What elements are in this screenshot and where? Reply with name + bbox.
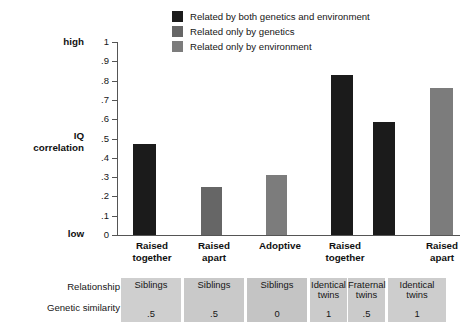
table-cell-relationship: Identicaltwins (310, 280, 347, 300)
axis-label-low: low (28, 228, 84, 239)
category-label-line1: Raised (409, 240, 466, 252)
x-axis-category-label: Adoptive (245, 240, 315, 252)
y-axis-tick: .7 (112, 100, 117, 101)
bar (133, 144, 156, 235)
plot-area: 1.9.8.7.6.5.4.3.2.10 (117, 42, 460, 235)
bar (266, 175, 287, 235)
table-cell-genetic-similarity: .5 (348, 308, 385, 319)
table-row-label-relationship: Relationship (67, 281, 120, 292)
axis-title-line1: IQ (10, 130, 84, 142)
table-row-label-genetic-similarity: Genetic similarity (47, 302, 120, 313)
y-axis-tick-label: .4 (101, 151, 109, 164)
relationship-line2: twins (310, 290, 347, 300)
y-axis-tick-label: .8 (101, 74, 109, 87)
y-axis-tick-label: .7 (101, 93, 109, 106)
y-axis-line (117, 42, 118, 235)
y-axis-tick-label: .9 (101, 54, 109, 67)
relationship-line1: Siblings (184, 280, 244, 290)
y-axis-tick-label: .1 (101, 209, 109, 222)
y-axis-tick-label: 1 (104, 35, 109, 48)
y-axis-tick: .2 (112, 196, 117, 197)
axis-title-line2: correlation (10, 142, 84, 154)
category-label-line1: Raised (310, 240, 380, 252)
legend-swatch-both (172, 11, 183, 22)
legend-swatch-genetics (172, 26, 183, 37)
table-column: Siblings0 (247, 278, 307, 322)
table-column: Identicaltwins1 (388, 278, 446, 322)
x-axis-category-label: Raisedapart (409, 240, 466, 264)
legend-item: Related by both genetics and environment (172, 9, 462, 23)
bar (373, 122, 395, 235)
y-axis-tick-label: 0 (104, 228, 109, 241)
table-column: Fraternaltwins.5 (348, 278, 385, 322)
y-axis-tick: .9 (112, 61, 117, 62)
relationship-line1: Siblings (247, 280, 307, 290)
table-column: Identicaltwins1 (310, 278, 347, 322)
y-axis-tick: 0 (112, 235, 117, 236)
table-cell-genetic-similarity: 1 (388, 308, 446, 319)
y-axis-tick: .1 (112, 216, 117, 217)
axis-title-iq-correlation: IQ correlation (10, 130, 84, 154)
y-axis-tick-label: .5 (101, 132, 109, 145)
table-cell-relationship: Identicaltwins (388, 280, 446, 300)
axis-label-high: high (28, 36, 84, 47)
table-cell-relationship: Siblings (184, 280, 244, 290)
category-label-line1: Raised (117, 240, 187, 252)
y-axis-tick-label: .3 (101, 170, 109, 183)
table-cell-relationship: Siblings (247, 280, 307, 290)
legend-item: Related only by genetics (172, 24, 462, 38)
relationship-table: Relationship Genetic similarity Siblings… (0, 278, 466, 324)
x-axis-category-labels: RaisedtogetherRaisedapartAdoptiveRaisedt… (117, 240, 460, 272)
bar (201, 187, 222, 235)
y-axis-tick: .8 (112, 81, 117, 82)
y-axis-tick-label: .6 (101, 112, 109, 125)
x-axis-category-label: Raisedtogether (310, 240, 380, 264)
table-cell-relationship: Siblings (121, 280, 181, 290)
y-axis-tick: 1 (112, 42, 117, 43)
relationship-line1: Siblings (121, 280, 181, 290)
category-label-line2: apart (409, 252, 466, 264)
y-axis-tick-label: .2 (101, 189, 109, 202)
y-axis-tick: .5 (112, 139, 117, 140)
table-cell-genetic-similarity: 1 (310, 308, 347, 319)
y-axis-tick: .3 (112, 177, 117, 178)
y-axis-tick: .4 (112, 158, 117, 159)
relationship-line2: twins (388, 290, 446, 300)
category-label-line2: together (310, 252, 380, 264)
legend-label-both: Related by both genetics and environment (190, 11, 370, 22)
category-label-line1: Adoptive (245, 240, 315, 252)
x-axis-category-label: Raisedtogether (117, 240, 187, 264)
category-label-line2: together (117, 252, 187, 264)
x-axis-line (117, 235, 460, 236)
y-axis-tick: .6 (112, 119, 117, 120)
bar (430, 88, 453, 235)
legend-label-genetics: Related only by genetics (190, 26, 295, 37)
table-cell-relationship: Fraternaltwins (348, 280, 385, 300)
table-cell-genetic-similarity: .5 (121, 308, 181, 319)
relationship-line2: twins (348, 290, 385, 300)
x-axis-category-label: Raisedapart (179, 240, 249, 264)
table-column: Siblings.5 (184, 278, 244, 322)
category-label-line1: Raised (179, 240, 249, 252)
category-label-line2: apart (179, 252, 249, 264)
table-column: Siblings.5 (121, 278, 181, 322)
table-cell-genetic-similarity: .5 (184, 308, 244, 319)
table-cell-genetic-similarity: 0 (247, 308, 307, 319)
bar (331, 75, 353, 235)
